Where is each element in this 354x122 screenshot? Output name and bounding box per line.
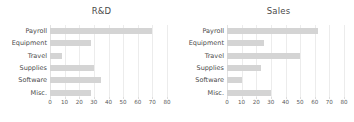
x-axis-tick-label: 50 xyxy=(120,99,127,105)
y-axis-tick-label: Equipment xyxy=(177,37,224,49)
gridline xyxy=(344,25,345,99)
bar xyxy=(50,53,62,59)
chart-title: Sales xyxy=(177,6,354,16)
x-axis-tick-label: 80 xyxy=(340,99,347,105)
y-axis-tick-label: Software xyxy=(177,74,224,86)
x-axis: 01020304050607080 xyxy=(50,99,167,113)
x-axis-tick-label: 30 xyxy=(90,99,97,105)
bar-series xyxy=(227,25,344,99)
bar xyxy=(50,90,91,96)
bar-row xyxy=(50,37,167,49)
y-axis-tick-label: Software xyxy=(0,74,47,86)
bar-row xyxy=(227,74,344,86)
x-axis-tick-label: 70 xyxy=(326,99,333,105)
y-axis-tick-label: Supplies xyxy=(177,62,224,74)
y-axis-tick-label: Travel xyxy=(177,50,224,62)
figure-container: R&DPayrollEquipmentTravelSuppliesSoftwar… xyxy=(0,0,354,122)
bar xyxy=(50,28,152,34)
y-axis-category-labels: PayrollEquipmentTravelSuppliesSoftwareMi… xyxy=(177,25,224,99)
chart-panel-r-d: R&DPayrollEquipmentTravelSuppliesSoftwar… xyxy=(0,0,177,122)
bar xyxy=(50,65,94,71)
bar-row xyxy=(227,37,344,49)
x-axis-tick-label: 70 xyxy=(149,99,156,105)
x-axis-tick-label: 10 xyxy=(238,99,245,105)
x-axis-tick-label: 40 xyxy=(282,99,289,105)
y-axis-tick-label: Supplies xyxy=(0,62,47,74)
bar-row xyxy=(227,25,344,37)
x-axis-tick-label: 50 xyxy=(297,99,304,105)
chart-title: R&D xyxy=(0,6,177,16)
x-axis-tick-label: 20 xyxy=(253,99,260,105)
y-axis-tick-label: Misc. xyxy=(177,87,224,99)
y-axis-tick-label: Travel xyxy=(0,50,47,62)
bar-series xyxy=(50,25,167,99)
x-axis: 01020304050607080 xyxy=(227,99,344,113)
y-axis-category-labels: PayrollEquipmentTravelSuppliesSoftwareMi… xyxy=(0,25,47,99)
bar-row xyxy=(50,74,167,86)
plot-area xyxy=(227,25,344,99)
bar xyxy=(227,28,318,34)
bar-row xyxy=(227,50,344,62)
bar-row xyxy=(50,25,167,37)
bar-row xyxy=(227,62,344,74)
x-axis-tick-label: 60 xyxy=(134,99,141,105)
x-axis-tick-label: 0 xyxy=(225,99,229,105)
x-axis-tick-label: 40 xyxy=(105,99,112,105)
bar xyxy=(50,77,101,83)
y-axis-tick-label: Payroll xyxy=(0,25,47,37)
x-axis-tick-label: 30 xyxy=(267,99,274,105)
bar xyxy=(227,40,264,46)
bar xyxy=(227,53,300,59)
chart-panel-sales: SalesPayrollEquipmentTravelSuppliesSoftw… xyxy=(177,0,354,122)
y-axis-tick-label: Payroll xyxy=(177,25,224,37)
bar xyxy=(227,77,242,83)
bar-row xyxy=(50,62,167,74)
x-axis-tick-label: 20 xyxy=(76,99,83,105)
bar-row xyxy=(50,50,167,62)
y-axis-tick-label: Misc. xyxy=(0,87,47,99)
y-axis-tick-label: Equipment xyxy=(0,37,47,49)
x-axis-tick-label: 60 xyxy=(311,99,318,105)
bar xyxy=(227,65,261,71)
bar xyxy=(227,90,271,96)
plot-area xyxy=(50,25,167,99)
x-axis-tick-label: 0 xyxy=(48,99,52,105)
x-axis-tick-label: 80 xyxy=(163,99,170,105)
gridline xyxy=(167,25,168,99)
x-axis-tick-label: 10 xyxy=(61,99,68,105)
bar xyxy=(50,40,91,46)
